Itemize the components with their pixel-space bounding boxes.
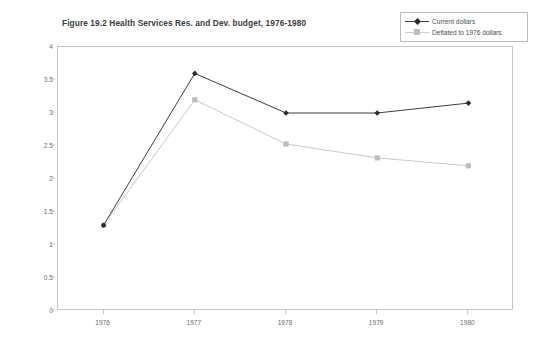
chart-legend: Current dollars Deflated to 1976 dollars (400, 12, 528, 42)
x-axis-tick-label: 1977 (186, 319, 201, 326)
data-point-square-marker (192, 97, 197, 102)
y-axis-tick-label: 2 (27, 175, 53, 182)
y-axis-tick-label: 2.5 (27, 142, 53, 149)
x-axis-tick-mark (103, 310, 104, 314)
data-point-square-marker (283, 141, 288, 146)
series-canvas (58, 47, 514, 311)
y-axis-tick-mark (51, 112, 55, 113)
figure-container: Figure 19.2 Health Services Res. and Dev… (0, 0, 543, 344)
y-axis-ticks: 00.511.522.533.54 (20, 46, 53, 310)
legend-item-current-dollars: Current dollars (405, 16, 523, 27)
x-axis-tick-label: 1978 (278, 319, 293, 326)
data-point-diamond-marker (283, 110, 289, 116)
y-axis-tick-label: 1.5 (27, 208, 53, 215)
legend-label-deflated-dollars: Deflated to 1976 dollars (432, 29, 502, 36)
y-axis-tick-mark (51, 178, 55, 179)
chart-title: Figure 19.2 Health Services Res. and Dev… (62, 18, 306, 28)
y-axis-tick-label: 0 (27, 307, 53, 314)
y-axis-tick-label: 0.5 (27, 274, 53, 281)
y-axis-tick-mark (51, 79, 55, 80)
legend-label-current-dollars: Current dollars (432, 18, 475, 25)
y-axis-tick-label: 3 (27, 109, 53, 116)
y-axis-tick-mark (51, 310, 55, 311)
y-axis-tick-mark (51, 244, 55, 245)
x-axis-tick-mark (194, 310, 195, 314)
data-point-square-marker (375, 155, 380, 160)
plot-area (57, 46, 513, 310)
y-axis-tick-label: 3.5 (27, 76, 53, 83)
y-axis-tick-mark (51, 211, 55, 212)
x-axis-tick-label: 1979 (369, 319, 384, 326)
data-point-square-marker (466, 163, 471, 168)
x-axis-ticks: 19761977197819791980 (57, 310, 513, 334)
legend-key-diamond-icon (405, 17, 429, 26)
series-line (104, 100, 469, 225)
legend-key-square-icon (405, 28, 429, 37)
data-point-diamond-marker (374, 110, 380, 116)
x-axis-tick-mark (285, 310, 286, 314)
x-axis-tick-label: 1976 (95, 319, 110, 326)
x-axis-tick-mark (467, 310, 468, 314)
x-axis-tick-label: 1980 (460, 319, 475, 326)
data-point-diamond-marker (192, 71, 198, 77)
legend-item-deflated-dollars: Deflated to 1976 dollars (405, 27, 523, 38)
y-axis-tick-mark (51, 277, 55, 278)
y-axis-tick-mark (51, 145, 55, 146)
y-axis-tick-label: 4 (27, 43, 53, 50)
y-axis-tick-label: 1 (27, 241, 53, 248)
data-point-diamond-marker (466, 100, 472, 106)
x-axis-tick-mark (376, 310, 377, 314)
